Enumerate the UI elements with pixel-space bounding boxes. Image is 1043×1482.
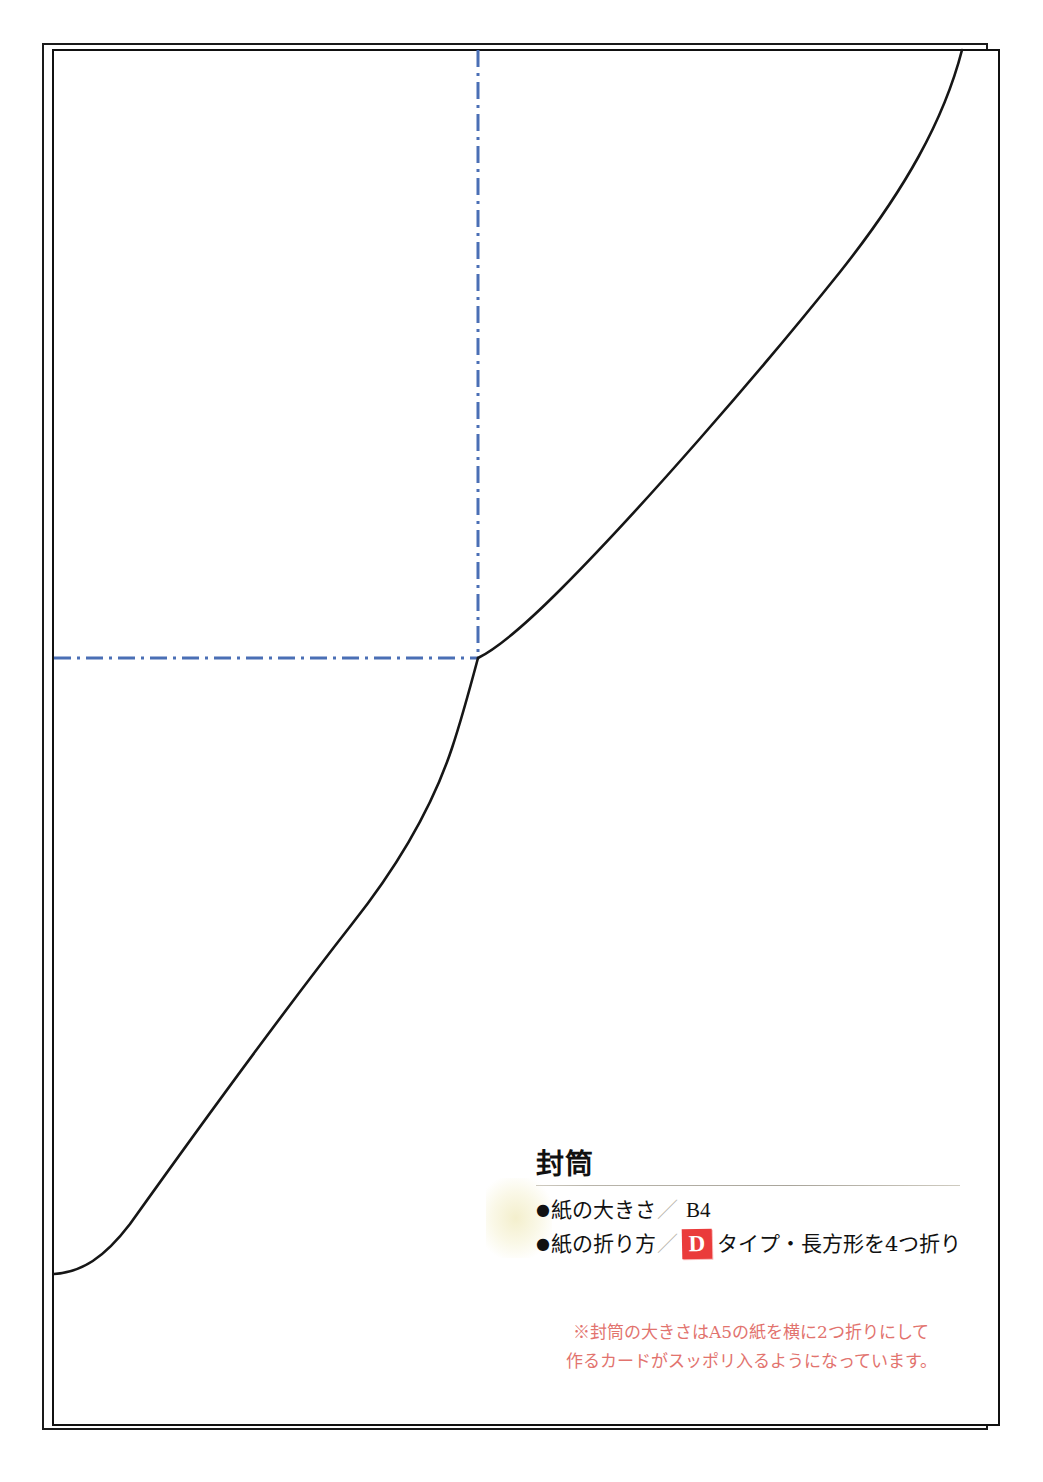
spec-paper-size: ● 紙の大きさ ／ B4 [536, 1193, 966, 1227]
spec-paper-size-value: B4 [686, 1193, 711, 1227]
spec-separator: ／ [657, 1227, 678, 1261]
page-root: 封筒 ● 紙の大きさ ／ B4 ● 紙の折り方 ／ D タイプ・長方形を4つ折り… [0, 0, 1043, 1482]
bullet-icon: ● [536, 1236, 550, 1252]
caption-note: ※封筒の大きさはA5の紙を横に2つ折りにして 作るカードがスッポリ入るようになっ… [536, 1318, 966, 1376]
spec-paper-size-label: 紙の大きさ [551, 1193, 656, 1227]
caption-note-line-2: 作るカードがスッポリ入るようになっています。 [536, 1347, 966, 1376]
fold-type-badge: D [682, 1229, 713, 1260]
title-divider [536, 1185, 960, 1186]
page-title: 封筒 [536, 1148, 966, 1182]
spec-separator: ／ [657, 1193, 678, 1227]
caption-note-line-1: ※封筒の大きさはA5の紙を横に2つ折りにして [536, 1318, 966, 1347]
spec-fold-method-label: 紙の折り方 [551, 1227, 656, 1261]
spec-fold-method: ● 紙の折り方 ／ D タイプ・長方形を4つ折り [536, 1227, 966, 1261]
spec-fold-method-value: タイプ・長方形を4つ折り [717, 1227, 961, 1261]
caption-block: 封筒 ● 紙の大きさ ／ B4 ● 紙の折り方 ／ D タイプ・長方形を4つ折り [536, 1148, 966, 1261]
bullet-icon: ● [536, 1202, 550, 1218]
